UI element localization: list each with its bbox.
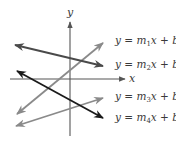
line-2-label: y = m2x + b2 (114, 58, 176, 72)
line-1-label: y = m1x + b1 (114, 34, 176, 48)
x-axis-label: x (129, 72, 136, 85)
line-4-label: y = m4x + b4 (114, 111, 176, 125)
four-lines-diagram: x y y = m1x + b1 y = m2x + b2 y = m3x + … (0, 0, 176, 142)
line-3 (16, 98, 103, 126)
line-3-label: y = m3x + b3 (114, 90, 176, 104)
line-2 (15, 45, 103, 66)
y-axis-label: y (66, 6, 74, 19)
